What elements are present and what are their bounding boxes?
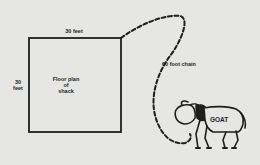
goat-icon bbox=[175, 101, 245, 148]
goat-label: GOAT bbox=[210, 117, 228, 123]
floor-plan-line3: shack bbox=[48, 88, 84, 94]
chain-length-label: 60 foot chain bbox=[162, 61, 196, 67]
side-dimension-unit: feet bbox=[9, 85, 27, 91]
shack-side-dimension-label: 30 feet bbox=[9, 79, 27, 91]
shack-top-dimension-label: 30 feet bbox=[60, 28, 88, 34]
diagram: 30 feet 30 feet Floor plan of shack 60 f… bbox=[0, 0, 260, 165]
chain-line bbox=[121, 16, 191, 144]
shack-floor-plan-label: Floor plan of shack bbox=[48, 76, 84, 94]
diagram-drawing bbox=[0, 0, 260, 165]
